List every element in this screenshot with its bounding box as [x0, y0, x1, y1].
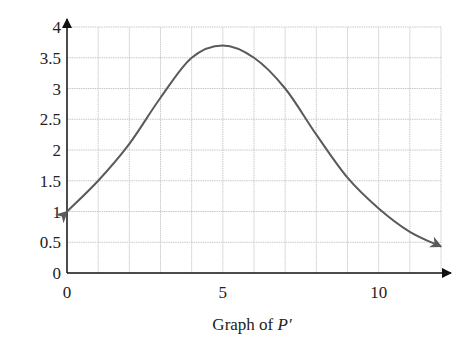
x-tick-label: 10: [370, 283, 387, 302]
x-tick-label: 5: [219, 283, 228, 302]
y-tick-label: 0: [53, 264, 62, 283]
chart-caption: Graph of P′: [0, 315, 464, 335]
caption-text: Graph of: [212, 315, 277, 334]
y-tick-label: 3.5: [40, 49, 61, 68]
caption-variable: P′: [278, 315, 292, 334]
y-tick-label: 1: [53, 203, 62, 222]
chart-area: 00.511.522.533.54 0510: [0, 0, 464, 351]
y-tick-label: 4: [53, 18, 62, 37]
y-tick-label: 2.5: [40, 110, 61, 129]
y-tick-label: 0.5: [40, 233, 61, 252]
axes: [67, 19, 451, 273]
grid-lines: [67, 27, 441, 273]
x-tick-labels: 0510: [63, 283, 387, 302]
y-tick-labels: 00.511.522.533.54: [40, 18, 62, 283]
x-tick-label: 0: [63, 283, 72, 302]
y-tick-label: 3: [53, 80, 62, 99]
y-tick-label: 1.5: [40, 172, 61, 191]
y-tick-label: 2: [53, 141, 62, 160]
